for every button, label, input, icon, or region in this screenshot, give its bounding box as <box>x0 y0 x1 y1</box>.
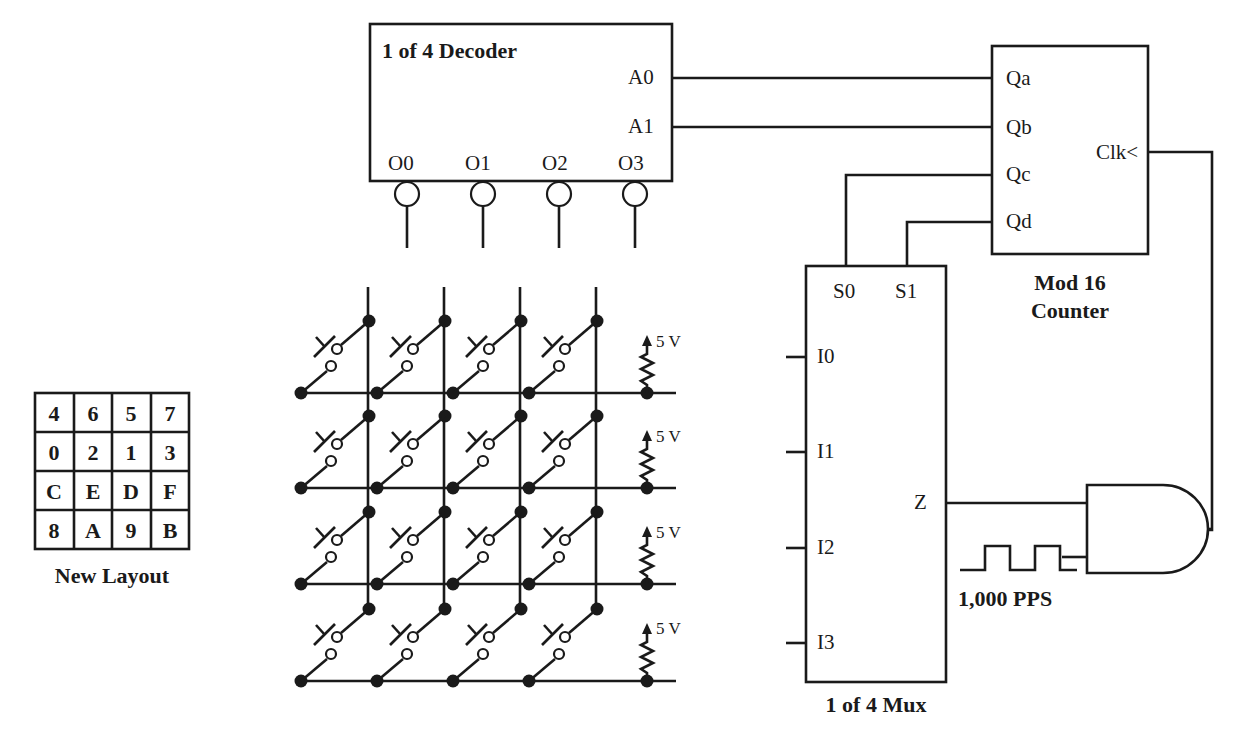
layout-cell: E <box>86 479 101 504</box>
pulse-label: 1,000 PPS <box>958 586 1052 611</box>
layout-cell: C <box>46 479 62 504</box>
decoder-output-o2: O2 <box>542 151 568 175</box>
mux-select-s0: S0 <box>833 279 855 303</box>
key-switch-row-4 <box>295 603 604 688</box>
wire-qc-s0 <box>846 175 992 266</box>
mux-input-i1: I1 <box>817 439 835 463</box>
mux-output-z: Z <box>914 490 927 514</box>
layout-cell: F <box>163 479 176 504</box>
decoder-output-o1: O1 <box>465 151 491 175</box>
layout-cell: 4 <box>49 401 60 426</box>
decoder-block: 1 of 4 Decoder A0 A1 O0 O1 O2 O3 <box>370 24 672 248</box>
counter-output-qc: Qc <box>1006 162 1031 186</box>
layout-cell: D <box>123 479 139 504</box>
layout-cell: A <box>85 518 101 543</box>
layout-cell: 5 <box>126 401 137 426</box>
counter-title-line1: Mod 16 <box>1034 270 1106 295</box>
counter-clock-input: Clk< <box>1096 140 1138 164</box>
key-switch-row-3 <box>295 506 604 591</box>
pullup-resistors: 5 V 5 V 5 V 5 V <box>641 332 682 688</box>
counter-output-qb: Qb <box>1006 115 1032 139</box>
key-switch-row-2 <box>295 410 604 495</box>
decoder-output-o3: O3 <box>618 151 644 175</box>
decoder-input-a0: A0 <box>628 65 654 89</box>
pullup-label-2: 5 V <box>656 427 681 446</box>
mux-block: S0 S1 I0 I1 I2 I3 Z 1 of 4 Mux <box>786 266 946 717</box>
decoder-title: 1 of 4 Decoder <box>382 38 517 63</box>
layout-cell: 7 <box>165 401 176 426</box>
pulse-source: 1,000 PPS <box>958 546 1087 611</box>
layout-cell: B <box>163 518 178 543</box>
decoder-output-bubbles <box>395 182 647 248</box>
mux-input-i2: I2 <box>817 535 835 559</box>
counter-output-qd: Qd <box>1006 209 1032 233</box>
counter-title-line2: Counter <box>1031 298 1109 323</box>
decoder-output-o0: O0 <box>388 151 414 175</box>
decoder-input-a1: A1 <box>628 114 654 138</box>
and-gate <box>1087 485 1208 573</box>
mux-select-s1: S1 <box>895 279 917 303</box>
layout-cell: 2 <box>88 440 99 465</box>
mux-title: 1 of 4 Mux <box>826 692 927 717</box>
pullup-label-3: 5 V <box>656 523 681 542</box>
mux-box <box>806 266 946 682</box>
wire-qd-s1 <box>907 222 992 266</box>
pullup-label-1: 5 V <box>656 332 681 351</box>
layout-cell: 1 <box>126 440 137 465</box>
square-wave-icon <box>960 546 1077 570</box>
layout-caption: New Layout <box>55 563 170 588</box>
pullup-label-4: 5 V <box>656 619 681 638</box>
layout-cell: 9 <box>126 518 137 543</box>
layout-cell: 6 <box>88 401 99 426</box>
wire-and-to-clk <box>1148 152 1212 530</box>
keypad-matrix: 5 V 5 V 5 V 5 V <box>295 287 682 688</box>
layout-table: 4 6 5 7 0 2 1 3 C E D F 8 A 9 B New Layo… <box>35 393 189 588</box>
counter-block: Qa Qb Qc Qd Clk< Mod 16 Counter <box>992 46 1148 323</box>
mux-input-i0: I0 <box>817 344 835 368</box>
key-switch-row-1 <box>295 315 604 400</box>
counter-output-qa: Qa <box>1006 66 1031 90</box>
layout-cell: 3 <box>165 440 176 465</box>
layout-cell: 0 <box>49 440 60 465</box>
layout-cell: 8 <box>49 518 60 543</box>
mux-input-i3: I3 <box>817 630 835 654</box>
